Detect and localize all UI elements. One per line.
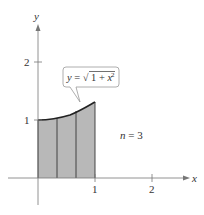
shaded-area <box>38 102 95 178</box>
tick-label-x-2: 2 <box>149 183 155 195</box>
n-annotation: n = 3 <box>120 129 143 141</box>
y-axis-arrow-icon <box>36 24 41 31</box>
tick-label-y-2: 2 <box>24 56 30 68</box>
function-label: y = √ <box>66 72 89 83</box>
x-axis-arrow-icon <box>183 176 190 181</box>
tick-label-y-1: 1 <box>24 114 30 126</box>
x-axis-label: x <box>191 172 197 184</box>
riemann-sum-chart: 1 2 1 2 y x n = 3 y = √ 1 + x 2 <box>0 0 204 215</box>
function-label-exponent: 2 <box>111 71 115 79</box>
y-axis-label: y <box>33 10 39 22</box>
function-label-body: 1 + x <box>91 72 112 83</box>
tick-label-x-1: 1 <box>92 183 98 195</box>
